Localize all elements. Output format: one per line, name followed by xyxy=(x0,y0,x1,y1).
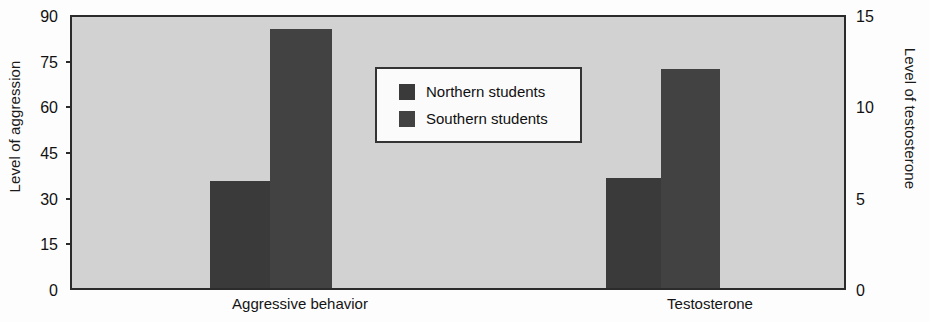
legend-entry-southern: Southern students xyxy=(399,105,580,132)
plot-area xyxy=(70,15,846,290)
left-tick-label-0: 0 xyxy=(12,283,58,299)
bar-aggressive-southern xyxy=(270,29,332,288)
left-tick-label-90: 90 xyxy=(12,9,58,25)
legend-entry-northern: Northern students xyxy=(399,78,580,105)
right-axis-title: Level of testosterone xyxy=(902,0,919,239)
category-label-testosterone: Testosterone xyxy=(530,295,890,312)
left-tick-label-75: 75 xyxy=(12,55,58,71)
chart-figure: Level of aggression Level of testosteron… xyxy=(0,0,930,322)
left-axis-title: Level of aggression xyxy=(6,7,23,247)
legend-swatch-southern-icon xyxy=(399,111,415,127)
bar-testosterone-northern xyxy=(606,178,661,288)
left-tick-label-15: 15 xyxy=(12,237,58,253)
category-label-aggressive-behavior: Aggressive behavior xyxy=(130,295,470,312)
legend-label-northern: Northern students xyxy=(426,83,545,100)
bar-testosterone-southern xyxy=(661,69,720,288)
right-tick-label-10: 10 xyxy=(856,100,874,116)
legend-swatch-northern-icon xyxy=(399,84,415,100)
chart-legend: Northern students Southern students xyxy=(375,67,582,143)
bar-aggressive-northern xyxy=(210,181,270,288)
left-tick-label-30: 30 xyxy=(12,192,58,208)
left-tick-label-45: 45 xyxy=(12,146,58,162)
right-tick-label-5: 5 xyxy=(856,192,865,208)
legend-label-southern: Southern students xyxy=(426,110,548,127)
right-tick-label-15: 15 xyxy=(856,9,874,25)
left-tick-label-60: 60 xyxy=(12,100,58,116)
